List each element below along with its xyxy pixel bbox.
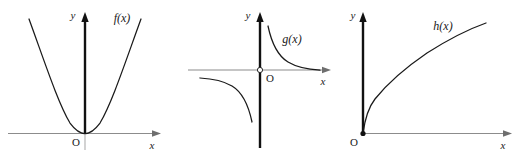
x-axis-label-h: x: [500, 139, 506, 151]
origin-dot-h: [360, 131, 365, 136]
y-axis-arrowhead-g: [256, 12, 263, 22]
y-axis-label-g: y: [245, 9, 251, 21]
origin-label-g: O: [266, 72, 274, 84]
function-label-g: g(x): [282, 32, 301, 46]
figure-canvas: y x O f(x) y x O g(x): [0, 0, 523, 160]
function-label-f: f(x): [114, 11, 131, 25]
y-axis-label-f: y: [70, 9, 76, 21]
origin-label-h: O: [350, 136, 358, 148]
origin-label-f: O: [72, 136, 80, 148]
x-axis-arrowhead-f: [152, 130, 161, 136]
x-axis-label-f: x: [149, 139, 155, 151]
y-axis-arrowhead-h: [359, 12, 366, 22]
y-axis-arrowhead-f: [81, 12, 88, 22]
graph-panel-f: y x O f(x): [0, 0, 175, 160]
function-label-h: h(x): [433, 19, 452, 33]
y-axis-label-h: y: [350, 9, 356, 21]
graph-panel-g: y x O g(x): [175, 0, 345, 160]
x-axis-label-g: x: [320, 75, 326, 87]
x-axis-arrowhead-h: [503, 130, 512, 136]
origin-open-circle-g: [257, 67, 262, 72]
x-axis-arrowhead-g: [322, 67, 331, 73]
curve-h: [363, 23, 486, 134]
graph-panel-h: y x O h(x): [345, 0, 523, 160]
curve-g-branch-lower: [200, 78, 252, 122]
